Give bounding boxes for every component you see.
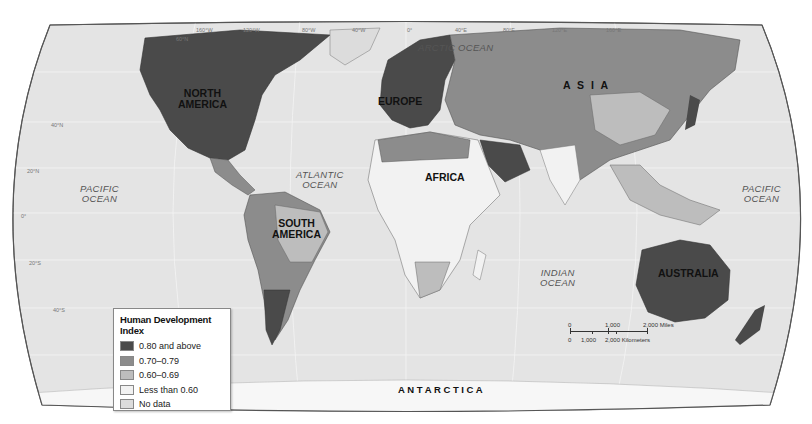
legend: Human Development Index 0.80 and above 0… bbox=[113, 308, 231, 411]
scale-tick bbox=[570, 328, 571, 334]
label-europe: EUROPE bbox=[378, 96, 422, 107]
graticule-label: 0° bbox=[21, 213, 26, 219]
legend-swatch bbox=[120, 356, 134, 366]
label-australia: AUSTRALIA bbox=[658, 268, 719, 279]
label-line: AMERICA bbox=[178, 99, 227, 110]
label-atlantic-ocean: ATLANTIC OCEAN bbox=[296, 170, 344, 190]
label-indian-ocean: INDIAN OCEAN bbox=[540, 268, 575, 288]
scale-tick bbox=[592, 331, 593, 334]
graticule-label: 120°W bbox=[243, 27, 260, 33]
graticule-label: 160°W bbox=[196, 27, 213, 33]
legend-label: 0.60–0.69 bbox=[139, 370, 179, 380]
label-arctic-ocean: ARCTIC OCEAN bbox=[418, 43, 493, 53]
legend-label: 0.70–0.79 bbox=[139, 356, 179, 366]
scale-tick bbox=[608, 328, 609, 334]
legend-title: Human Development Index bbox=[120, 314, 224, 336]
label-line: OCEAN bbox=[80, 194, 119, 204]
label-north-america: NORTH AMERICA bbox=[178, 88, 227, 110]
legend-swatch bbox=[120, 399, 134, 409]
graticule-label: 40°S bbox=[53, 307, 65, 313]
legend-item: 0.80 and above bbox=[120, 339, 224, 354]
graticule-label: 40°W bbox=[352, 27, 366, 33]
scale-km-2000: 2,000 Kilometers bbox=[605, 337, 650, 343]
label-africa: AFRICA bbox=[425, 172, 465, 183]
scale-km-1000: 1,000 bbox=[581, 337, 596, 343]
scale-tick bbox=[616, 331, 617, 334]
label-line: OCEAN bbox=[540, 278, 575, 288]
legend-swatch bbox=[120, 385, 134, 395]
label-line: AMERICA bbox=[272, 229, 321, 240]
legend-label: Less than 0.60 bbox=[139, 385, 198, 395]
label-asia: A S I A bbox=[563, 80, 610, 91]
legend-swatch bbox=[120, 341, 134, 351]
legend-item: Less than 0.60 bbox=[120, 383, 224, 398]
graticule-label: 120°E bbox=[552, 27, 567, 33]
scale-tick bbox=[647, 328, 648, 334]
graticule-label: 60°N bbox=[176, 36, 188, 42]
graticule-label: 80°W bbox=[302, 27, 316, 33]
graticule-label: 160°E bbox=[606, 27, 621, 33]
legend-item: 0.60–0.69 bbox=[120, 368, 224, 383]
scale-km-0: 0 bbox=[568, 337, 571, 343]
legend-label: 0.80 and above bbox=[139, 341, 201, 351]
scale-bar: 0 1,000 2,000 Miles 0 1,000 2,000 Kilome… bbox=[568, 322, 678, 346]
graticule-label: 0° bbox=[407, 27, 412, 33]
legend-item: No data bbox=[120, 397, 224, 412]
graticule-label: 80°E bbox=[503, 27, 515, 33]
graticule-label: 40°N bbox=[51, 122, 63, 128]
graticule-label: 40°E bbox=[455, 27, 467, 33]
graticule-label: 20°N bbox=[27, 168, 39, 174]
label-pacific-ocean-east: PACIFIC OCEAN bbox=[742, 184, 781, 204]
legend-swatch bbox=[120, 370, 134, 380]
label-antarctica: A N T A R C T I C A bbox=[398, 385, 483, 395]
label-line: OCEAN bbox=[742, 194, 781, 204]
label-pacific-ocean-west: PACIFIC OCEAN bbox=[80, 184, 119, 204]
graticule-label: 20°S bbox=[29, 260, 41, 266]
label-south-america: SOUTH AMERICA bbox=[272, 218, 321, 240]
label-line: OCEAN bbox=[296, 180, 344, 190]
australia-landmass bbox=[636, 240, 730, 322]
legend-label: No data bbox=[139, 399, 171, 409]
legend-item: 0.70–0.79 bbox=[120, 354, 224, 369]
